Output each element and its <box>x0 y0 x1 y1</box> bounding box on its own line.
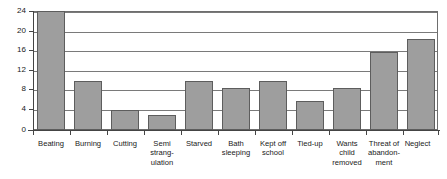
x-label-line: ulation <box>129 158 195 167</box>
x-tick-mark-1 <box>70 131 71 135</box>
x-axis-line <box>28 130 440 131</box>
x-tick-mark-10 <box>403 131 404 135</box>
x-tick-mark-4 <box>181 131 182 135</box>
x-tick-mark-5 <box>218 131 219 135</box>
bar-burning <box>74 81 102 130</box>
y-tick-label-8: 8 <box>2 85 26 93</box>
x-axis-label-neglect: Neglect <box>388 139 447 148</box>
x-tick-mark-8 <box>329 131 330 135</box>
y-tick-mark-12 <box>29 70 33 71</box>
y-axis-line <box>33 11 34 131</box>
x-tick-mark-9 <box>366 131 367 135</box>
y-tick-mark-16 <box>29 50 33 51</box>
x-tick-mark-2 <box>107 131 108 135</box>
x-tick-mark-6 <box>255 131 256 135</box>
x-label-line: strang- <box>129 148 195 157</box>
bar-threat-of-abandonment <box>370 52 398 130</box>
x-tick-mark-11 <box>438 131 439 135</box>
x-label-line: school <box>240 148 306 157</box>
y-tick-label-24: 24 <box>2 7 26 15</box>
bar-chart-figure: 24 20 16 12 8 4 0 Beating Burning Cuttin… <box>0 0 447 179</box>
bar-neglect <box>407 39 435 130</box>
bar-beating <box>37 11 65 130</box>
y-tick-mark-20 <box>29 31 33 32</box>
y-tick-mark-24 <box>29 11 33 12</box>
x-tick-mark-3 <box>144 131 145 135</box>
x-label-line: Neglect <box>405 139 431 148</box>
x-label-line: abandon- <box>351 148 417 157</box>
y-tick-mark-8 <box>29 89 33 90</box>
bar-tied-up <box>296 101 324 130</box>
y-tick-label-20: 20 <box>2 27 26 35</box>
y-tick-label-4: 4 <box>2 105 26 113</box>
bar-cutting <box>111 110 139 130</box>
y-tick-label-12: 12 <box>2 66 26 74</box>
bar-semi-strangulation <box>148 115 176 130</box>
x-tick-mark-0 <box>33 131 34 135</box>
bar-wants-child-removed <box>333 88 361 130</box>
x-tick-mark-7 <box>292 131 293 135</box>
x-label-line: ment <box>351 158 417 167</box>
y-tick-label-0: 0 <box>2 126 26 134</box>
bar-starved <box>185 81 213 130</box>
bar-kept-off-school <box>259 81 287 130</box>
bars-layer <box>33 11 438 130</box>
bar-bath-sleeping <box>222 88 250 130</box>
y-tick-mark-4 <box>29 109 33 110</box>
y-tick-label-16: 16 <box>2 46 26 54</box>
